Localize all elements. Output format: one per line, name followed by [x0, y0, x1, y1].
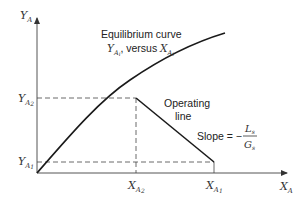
y-axis-label: YA [20, 9, 32, 24]
x-axis-label: XA [279, 180, 293, 195]
x-tick-xa2: XA2 [127, 179, 145, 194]
x-tick-xa1: XA1 [205, 179, 223, 194]
operating-line-label-2: line [175, 110, 192, 122]
diagram-canvas: YA XA YA2 YA1 XA2 XA1 Equilibrium curve … [0, 0, 306, 197]
slope-denominator: Gs [244, 139, 255, 151]
equilibrium-curve-desc: YAi, versus XAi [107, 42, 174, 57]
slope-numerator: Ls [244, 123, 255, 135]
operating-line-label-1: Operating [164, 97, 210, 109]
y-tick-ya1: YA1 [18, 155, 34, 170]
slope-label: Slope = − [197, 130, 242, 142]
equilibrium-curve-title: Equilibrium curve [101, 28, 182, 40]
y-tick-ya2: YA2 [18, 92, 34, 107]
